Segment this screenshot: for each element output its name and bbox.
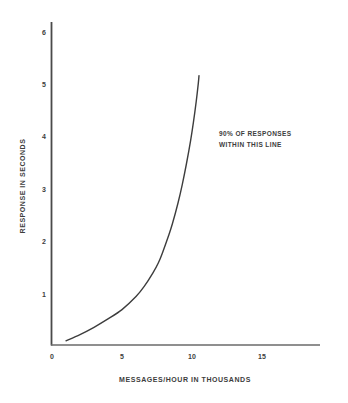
curve-annotation: 90% OF RESPONSES WITHIN THIS LINE <box>219 129 292 150</box>
y-tick-label-3: 3 <box>42 186 46 193</box>
response-time-curve <box>66 76 199 341</box>
curve-annotation-line-1: 90% OF RESPONSES <box>219 129 292 140</box>
curve-annotation-line-2: WITHIN THIS LINE <box>219 140 292 151</box>
x-tick-label-0: 0 <box>50 353 54 360</box>
y-tick-label-5: 5 <box>42 81 46 88</box>
y-tick-label-2: 2 <box>42 238 46 245</box>
x-tick-label-15: 15 <box>258 353 266 360</box>
x-tick-label-5: 5 <box>120 353 124 360</box>
y-tick-label-1: 1 <box>42 291 46 298</box>
x-tick-label-10: 10 <box>188 353 196 360</box>
y-tick-label-4: 4 <box>42 133 46 140</box>
y-axis-title: RESPONSE IN SECONDS <box>19 139 26 234</box>
plot-area <box>0 0 348 403</box>
x-axis-title: MESSAGES/HOUR IN THOUSANDS <box>119 376 251 383</box>
y-tick-label-6: 6 <box>42 29 46 36</box>
chart-figure: 6 5 4 3 2 1 0 5 10 15 MESSAGES/HOUR IN T… <box>0 0 348 403</box>
